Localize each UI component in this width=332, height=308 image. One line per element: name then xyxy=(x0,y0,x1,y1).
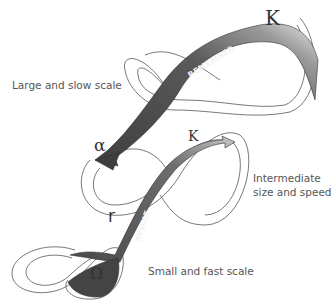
intermediate-scale-label-line2: size and speed xyxy=(253,186,332,199)
small-scale-label: Small and fast scale xyxy=(148,265,254,278)
alpha-symbol: α xyxy=(94,135,105,155)
remember-arrow xyxy=(95,24,318,170)
r-symbol: r xyxy=(108,206,115,226)
omega-symbol: Ω xyxy=(90,264,103,283)
intermediate-k-symbol: K xyxy=(188,128,198,144)
intermediate-scale-label-line1: Intermediate xyxy=(253,172,321,185)
large-scale-label: Large and slow scale xyxy=(12,79,122,92)
large-k-symbol: K xyxy=(265,6,280,30)
